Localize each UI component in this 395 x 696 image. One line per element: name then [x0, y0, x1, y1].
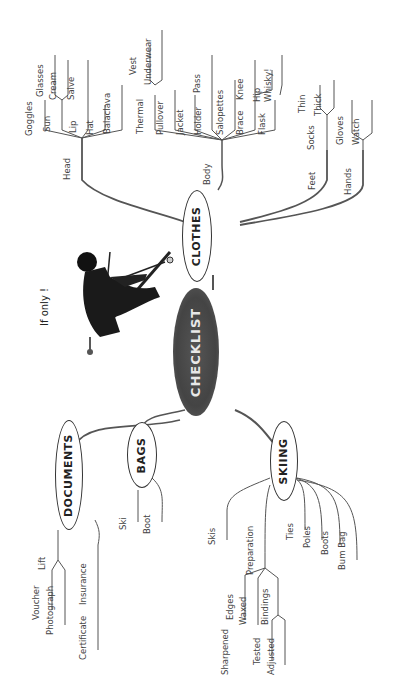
clothes-label: CLOTHES: [191, 206, 204, 266]
leaf-gloves[interactable]: Gloves: [335, 116, 345, 145]
leaf-pullover[interactable]: Pullover: [155, 101, 165, 135]
leaf-thermal[interactable]: Thermal: [135, 99, 145, 134]
skiing-label: SKIING: [278, 438, 291, 484]
bags-label: BAGS: [136, 437, 149, 473]
leaf-sharpened[interactable]: Sharpened: [220, 629, 230, 675]
leaf-edges[interactable]: Edges: [225, 594, 235, 620]
leaf-whisky[interactable]: Whisky!: [263, 68, 273, 102]
leaf-ties[interactable]: Ties: [285, 523, 295, 540]
leaf-skis[interactable]: Skis: [207, 528, 217, 545]
leaf-pass[interactable]: Pass: [192, 74, 202, 93]
leaf-hat[interactable]: Hat: [85, 120, 95, 135]
node-bags[interactable]: BAGS: [127, 422, 157, 488]
leaf-jacket[interactable]: Jacket: [175, 109, 185, 135]
leaf-salopettes[interactable]: Salopettes: [215, 90, 225, 135]
root-node-checklist[interactable]: CHECKLIST: [173, 288, 219, 416]
documents-label: DOCUMENTS: [63, 433, 76, 516]
leaf-lip[interactable]: Lip: [68, 121, 78, 134]
leaf-photograph[interactable]: Photograph: [45, 586, 55, 635]
leaf-vest[interactable]: Vest: [128, 57, 138, 75]
skier-illustration: [75, 242, 185, 357]
leaf-tested[interactable]: Tested: [252, 638, 262, 665]
leaf-thin[interactable]: Thin: [297, 95, 307, 113]
leaf-brace[interactable]: Brace: [235, 111, 245, 135]
leaf-feet[interactable]: Feet: [307, 172, 317, 190]
leaf-adjusted[interactable]: Adjusted: [266, 638, 276, 675]
leaf-certificate[interactable]: Certificate: [78, 616, 88, 660]
leaf-waxed[interactable]: Waxed: [238, 597, 248, 625]
leaf-voucher[interactable]: Voucher: [31, 585, 41, 620]
root-label: CHECKLIST: [189, 307, 204, 396]
leaf-cream[interactable]: Cream: [48, 72, 58, 100]
node-clothes[interactable]: CLOTHES: [182, 190, 212, 282]
leaf-goggles[interactable]: Goggles: [24, 101, 34, 136]
leaf-insurance[interactable]: Insurance: [78, 563, 88, 605]
node-documents[interactable]: DOCUMENTS: [55, 420, 83, 530]
leaf-balaclava[interactable]: Balaclava: [102, 93, 112, 134]
leaf-preparation[interactable]: Preparation: [245, 526, 255, 575]
leaf-hip[interactable]: Hip: [252, 88, 262, 102]
leaf-flask[interactable]: Flask: [257, 113, 267, 135]
leaf-head[interactable]: Head: [62, 158, 72, 180]
leaf-ski[interactable]: Ski: [118, 517, 128, 530]
leaf-body[interactable]: Body: [202, 164, 212, 185]
leaf-hands[interactable]: Hands: [343, 168, 353, 195]
leaf-socks[interactable]: Socks: [306, 125, 316, 150]
node-skiing[interactable]: SKIING: [270, 421, 298, 501]
leaf-bindings[interactable]: Bindings: [260, 588, 270, 625]
leaf-knee[interactable]: Knee: [235, 79, 245, 100]
leaf-salve[interactable]: Salve: [66, 77, 76, 100]
leaf-thick[interactable]: Thick: [313, 93, 323, 116]
leaf-poles[interactable]: Poles: [302, 526, 312, 548]
leaf-glasses[interactable]: Glasses: [35, 64, 45, 97]
leaf-lift[interactable]: Lift: [37, 557, 47, 570]
leaf-boots[interactable]: Boots: [320, 531, 330, 555]
leaf-holder[interactable]: Holder: [193, 107, 203, 135]
leaf-bum-bag[interactable]: Bum Bag: [337, 531, 347, 570]
leaf-boot[interactable]: Boot: [142, 514, 152, 534]
leaf-sun[interactable]: Sun: [42, 116, 52, 132]
caption-if-only: If only !: [39, 288, 50, 326]
leaf-underwear[interactable]: Underwear: [143, 38, 153, 85]
leaf-watch[interactable]: Watch: [351, 119, 361, 145]
